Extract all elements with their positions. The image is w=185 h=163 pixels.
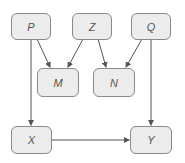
node-m: M (37, 68, 79, 97)
node-z: Z (72, 13, 112, 40)
node-q: Q (131, 13, 171, 40)
node-p: P (11, 13, 51, 40)
node-n: N (93, 68, 135, 97)
node-x: X (11, 126, 52, 154)
edge-z-n (98, 39, 106, 67)
edge-p-m (37, 39, 50, 67)
node-y: Y (130, 126, 172, 154)
edge-z-m (68, 39, 83, 67)
edge-q-n (126, 39, 142, 67)
